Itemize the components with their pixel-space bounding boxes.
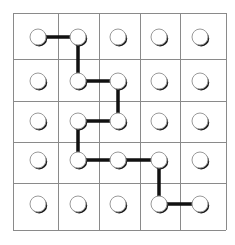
node-1-1[interactable] xyxy=(70,73,87,90)
node-0-1[interactable] xyxy=(70,29,87,46)
node-3-1[interactable] xyxy=(70,152,87,169)
node-4-2[interactable] xyxy=(110,196,127,213)
node-0-0[interactable] xyxy=(30,29,47,46)
node-3-4[interactable] xyxy=(192,152,209,169)
node-4-4[interactable] xyxy=(192,196,209,213)
node-circle[interactable] xyxy=(110,196,126,212)
node-circle[interactable] xyxy=(30,73,46,89)
node-1-3[interactable] xyxy=(151,73,168,90)
node-circle[interactable] xyxy=(151,73,167,89)
node-circle[interactable] xyxy=(110,73,126,89)
node-circle[interactable] xyxy=(151,29,167,45)
node-4-1[interactable] xyxy=(70,196,87,213)
node-3-2[interactable] xyxy=(110,152,127,169)
node-circle[interactable] xyxy=(192,196,208,212)
node-2-1[interactable] xyxy=(70,113,87,130)
node-1-2[interactable] xyxy=(110,73,127,90)
node-3-0[interactable] xyxy=(30,152,47,169)
node-circle[interactable] xyxy=(30,152,46,168)
node-1-0[interactable] xyxy=(30,73,47,90)
node-0-2[interactable] xyxy=(110,29,127,46)
node-circle[interactable] xyxy=(70,152,86,168)
node-circle[interactable] xyxy=(192,29,208,45)
grid-board xyxy=(0,0,235,245)
node-circle[interactable] xyxy=(151,196,167,212)
node-circle[interactable] xyxy=(151,152,167,168)
node-2-3[interactable] xyxy=(151,113,168,130)
node-circle[interactable] xyxy=(192,73,208,89)
node-4-0[interactable] xyxy=(30,196,47,213)
node-circle[interactable] xyxy=(110,29,126,45)
node-circle[interactable] xyxy=(70,113,86,129)
node-3-3[interactable] xyxy=(151,152,168,169)
node-circle[interactable] xyxy=(192,152,208,168)
node-0-3[interactable] xyxy=(151,29,168,46)
node-circle[interactable] xyxy=(70,196,86,212)
node-circle[interactable] xyxy=(30,29,46,45)
nodes xyxy=(30,29,209,213)
node-2-0[interactable] xyxy=(30,113,47,130)
node-4-3[interactable] xyxy=(151,196,168,213)
node-circle[interactable] xyxy=(151,113,167,129)
node-circle[interactable] xyxy=(70,73,86,89)
node-circle[interactable] xyxy=(192,113,208,129)
node-circle[interactable] xyxy=(110,113,126,129)
node-circle[interactable] xyxy=(30,196,46,212)
node-circle[interactable] xyxy=(70,29,86,45)
node-circle[interactable] xyxy=(30,113,46,129)
node-2-2[interactable] xyxy=(110,113,127,130)
node-1-4[interactable] xyxy=(192,73,209,90)
node-0-4[interactable] xyxy=(192,29,209,46)
node-circle[interactable] xyxy=(110,152,126,168)
node-2-4[interactable] xyxy=(192,113,209,130)
